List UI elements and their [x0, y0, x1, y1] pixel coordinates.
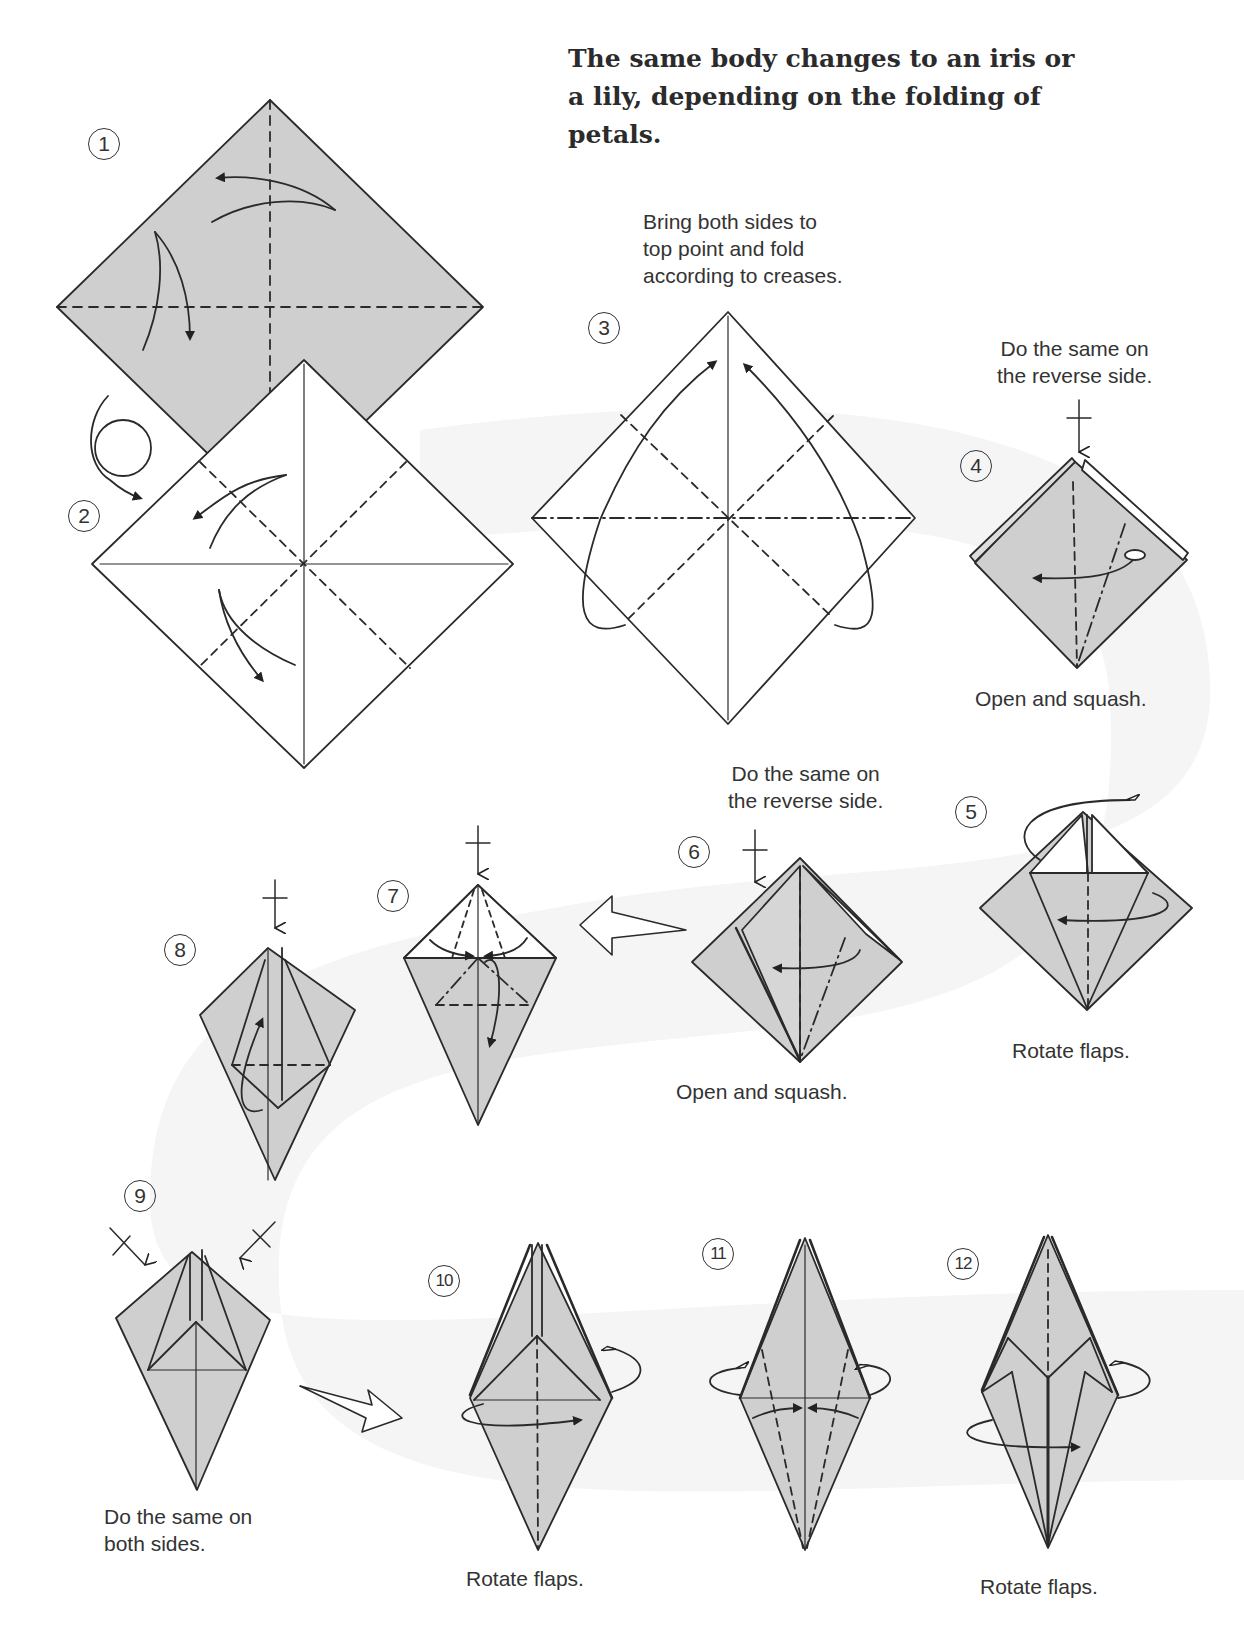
- step-2-diagram: [91, 360, 513, 768]
- step-3-caption: Bring both sides to top point and fold a…: [643, 208, 843, 289]
- step-6-caption: Open and squash.: [676, 1078, 848, 1105]
- step-10-caption: Rotate flaps.: [466, 1565, 584, 1592]
- step-12-diagram: [967, 1235, 1150, 1548]
- caption-line: the reverse side.: [997, 362, 1152, 389]
- caption-line: according to creases.: [643, 262, 843, 289]
- step-8-diagram: [200, 880, 355, 1180]
- step-number-6: 6: [678, 836, 710, 868]
- next-step-hollow-arrow: [580, 896, 686, 955]
- caption-line: the reverse side.: [728, 787, 883, 814]
- turn-over-icon: [91, 396, 151, 498]
- step-number-7: 7: [377, 880, 409, 912]
- step-9-caption: Do the same on both sides.: [104, 1503, 252, 1557]
- folding-diagrams: [0, 0, 1244, 1644]
- step-number-1: 1: [88, 128, 120, 160]
- step-5-diagram: [980, 800, 1192, 1010]
- caption-line: Do the same on: [728, 760, 883, 787]
- step-4-diagram: [970, 400, 1188, 668]
- step-10-diagram: [462, 1243, 640, 1550]
- step-6-top-caption: Do the same on the reverse side.: [728, 760, 883, 814]
- step-number-9: 9: [124, 1180, 156, 1212]
- step-number-2: 2: [68, 500, 100, 532]
- next-step-hollow-arrow: [300, 1386, 402, 1432]
- caption-line: Bring both sides to: [643, 208, 843, 235]
- step-11-diagram: [710, 1238, 890, 1550]
- caption-line: both sides.: [104, 1530, 252, 1557]
- step-number-11: 11: [702, 1238, 734, 1270]
- caption-line: top point and fold: [643, 235, 843, 262]
- step-6-diagram: [580, 830, 902, 1062]
- step-number-4: 4: [960, 450, 992, 482]
- step-4-top-caption: Do the same on the reverse side.: [997, 335, 1152, 389]
- step-number-10: 10: [428, 1265, 460, 1297]
- step-number-5: 5: [955, 796, 987, 828]
- step-9-diagram: [110, 1222, 402, 1490]
- caption-line: Do the same on: [104, 1503, 252, 1530]
- step-7-diagram: [404, 826, 556, 1125]
- caption-line: Do the same on: [997, 335, 1152, 362]
- step-12-caption: Rotate flaps.: [980, 1573, 1098, 1600]
- step-number-8: 8: [164, 934, 196, 966]
- step-3-diagram: [532, 312, 915, 724]
- step-5-caption: Rotate flaps.: [1012, 1037, 1130, 1064]
- step-number-3: 3: [588, 312, 620, 344]
- step-4-caption: Open and squash.: [975, 685, 1147, 712]
- step-number-12: 12: [947, 1248, 979, 1280]
